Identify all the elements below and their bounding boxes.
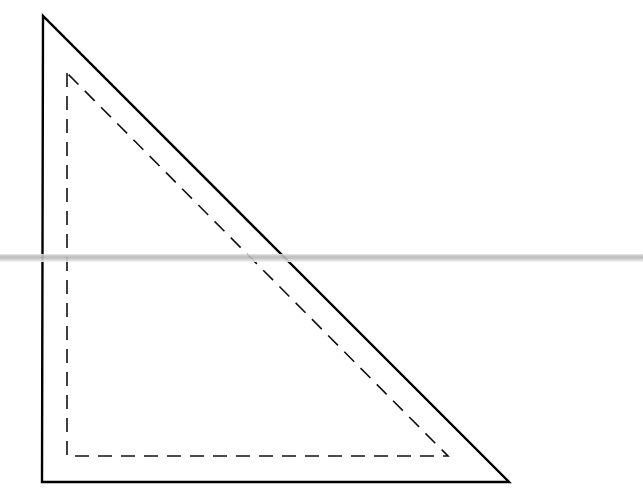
- outer-triangle: [42, 16, 509, 482]
- horizontal-rule: [0, 254, 643, 262]
- triangle-diagram: [0, 0, 643, 504]
- inner-dashed-triangle: [67, 73, 448, 456]
